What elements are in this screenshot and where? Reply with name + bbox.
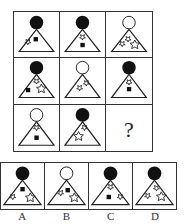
option-c[interactable] — [89, 163, 133, 209]
option-label-b: B — [44, 210, 88, 222]
option-label-c: C — [89, 210, 133, 222]
square-icon — [107, 195, 111, 199]
option-a[interactable] — [1, 163, 45, 209]
figure-filled-circle-triangle — [106, 58, 152, 103]
star-icon — [74, 131, 84, 140]
figure-empty-circle-triangle — [45, 163, 88, 209]
figure-empty-circle-triangle — [14, 105, 59, 151]
star-icon — [119, 41, 125, 46]
star-icon — [154, 186, 160, 191]
grid-cell-4 — [14, 58, 60, 104]
question-mark: ? — [106, 117, 152, 143]
square-icon — [80, 43, 84, 47]
grid-cell-3 — [106, 12, 152, 58]
square-icon — [66, 188, 70, 192]
option-b[interactable] — [45, 163, 89, 209]
square-icon — [26, 88, 30, 92]
grid-cell-6 — [106, 58, 152, 104]
figure-filled-circle-triangle — [14, 58, 59, 103]
figure-filled-circle-triangle — [14, 12, 59, 57]
square-icon — [34, 37, 38, 41]
option-label-d: D — [133, 210, 177, 222]
grid-cell-2 — [60, 12, 106, 58]
square-icon — [20, 187, 24, 191]
grid-cell-8 — [60, 105, 106, 151]
answer-options — [0, 162, 177, 210]
star-icon — [82, 125, 88, 130]
grid-cell-1 — [14, 12, 60, 58]
star-icon — [34, 79, 40, 84]
figure-filled-circle-triangle — [133, 163, 176, 209]
puzzle-grid: ? — [13, 11, 153, 152]
star-icon — [10, 194, 16, 199]
grid-cell-7 — [14, 105, 60, 151]
option-labels: A B C D — [0, 210, 177, 222]
star-icon — [58, 190, 64, 195]
star-icon — [145, 193, 151, 198]
option-label-a: A — [0, 210, 44, 222]
square-icon — [34, 135, 38, 139]
star-icon — [126, 80, 132, 85]
star-icon — [77, 86, 83, 91]
star-icon — [80, 35, 86, 40]
star-icon — [108, 185, 114, 190]
star-icon — [125, 37, 131, 42]
figure-filled-circle-triangle — [60, 105, 105, 151]
figure-empty-circle-triangle — [106, 12, 152, 57]
grid-cell-missing: ? — [106, 105, 152, 151]
star-icon — [117, 194, 123, 199]
star-icon — [83, 81, 89, 86]
star-icon — [34, 125, 40, 130]
option-d[interactable] — [133, 163, 176, 209]
grid-cell-5 — [60, 58, 106, 104]
figure-filled-circle-triangle — [60, 12, 105, 57]
figure-filled-circle-triangle — [89, 163, 132, 209]
figure-filled-circle-triangle — [1, 163, 44, 209]
figure-empty-circle-triangle — [60, 58, 105, 103]
square-icon — [127, 87, 131, 91]
star-icon — [25, 39, 31, 44]
